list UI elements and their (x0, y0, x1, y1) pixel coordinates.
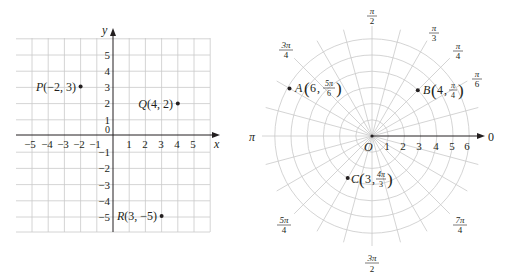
svg-text:): ) (387, 170, 393, 189)
point-r: R(3, −5) (116, 209, 164, 223)
svg-text:−2: −2 (98, 162, 110, 174)
svg-text:π: π (370, 6, 375, 16)
svg-text:−3: −3 (98, 179, 110, 191)
y-axis-arrow-icon (110, 28, 116, 36)
svg-text:3: 3 (432, 33, 437, 43)
svg-text:4: 4 (174, 138, 180, 150)
svg-text:1: 1 (126, 138, 132, 150)
svg-text:5: 5 (190, 138, 196, 150)
svg-text:1: 1 (384, 140, 390, 152)
svg-text:3: 3 (158, 138, 164, 150)
svg-text:6: 6 (475, 79, 480, 89)
angle-label-pi: π (249, 130, 256, 144)
svg-text:4π: 4π (377, 170, 386, 179)
svg-text:−4: −4 (98, 195, 110, 207)
svg-text:4: 4 (437, 83, 443, 97)
svg-text:−2: −2 (73, 138, 85, 150)
svg-text:3: 3 (365, 172, 371, 186)
cartesian-plane: x y 0 −5 −4 −3 −2 −1 1 2 3 4 5 5 4 3 2 1… (16, 23, 220, 232)
angle-label-pi-over-6: π 6 (472, 69, 482, 89)
svg-text:4: 4 (284, 50, 289, 60)
svg-text:3: 3 (105, 81, 111, 93)
svg-text:5π: 5π (279, 215, 289, 225)
polar-axis-label: 0 (488, 130, 494, 144)
polar-axis-arrow-icon (477, 133, 485, 139)
y-axis-label: y (101, 23, 108, 37)
angle-label-7pi-over-4: 7π 4 (453, 215, 467, 235)
svg-text:−3: −3 (57, 138, 69, 150)
svg-text:π: π (475, 69, 480, 79)
svg-text:2: 2 (105, 97, 111, 109)
svg-text:−5: −5 (98, 211, 110, 223)
svg-text:,: , (444, 83, 447, 97)
y-tick-labels: 5 4 3 2 1 −1 −2 −3 −4 −5 (98, 49, 110, 223)
svg-text:A: A (294, 81, 303, 95)
angle-label-3pi-over-4: 3π 4 (279, 40, 293, 60)
svg-text:R(3, −5): R(3, −5) (116, 209, 157, 223)
point-a: A ( 6 , 5π 6 ) (288, 79, 342, 98)
svg-text:3: 3 (379, 180, 383, 189)
svg-text:6: 6 (310, 81, 316, 95)
svg-text:3π: 3π (280, 40, 291, 50)
svg-text:Q(4, 2): Q(4, 2) (138, 97, 173, 111)
x-axis-label: x (213, 137, 220, 151)
svg-text:): ) (458, 81, 464, 100)
svg-text:6: 6 (464, 140, 470, 152)
svg-text:6: 6 (327, 89, 331, 98)
svg-text:−1: −1 (98, 146, 110, 158)
svg-text:4: 4 (433, 140, 439, 152)
svg-text:π: π (456, 41, 461, 51)
svg-text:4: 4 (105, 65, 111, 77)
svg-text:3π: 3π (366, 253, 377, 263)
svg-text:3: 3 (416, 140, 422, 152)
angle-label-3pi-over-2: 3π 2 (365, 253, 379, 274)
svg-text:−5: −5 (24, 138, 36, 150)
svg-text:2: 2 (370, 264, 375, 274)
pole-dot (370, 134, 373, 137)
angle-label-5pi-over-4: 5π 4 (277, 215, 291, 235)
svg-text:4: 4 (282, 225, 287, 235)
svg-text:π: π (432, 23, 437, 33)
pole-label: O (364, 140, 373, 154)
svg-text:4: 4 (458, 225, 463, 235)
svg-text:B: B (423, 83, 431, 97)
svg-text:): ) (336, 79, 342, 98)
svg-text:5: 5 (105, 49, 111, 61)
angle-label-pi-over-2: π 2 (367, 6, 377, 26)
svg-text:,: , (317, 81, 320, 95)
point-p: P(−2, 3) (35, 80, 83, 94)
angle-label-pi-over-4: π 4 (453, 41, 463, 61)
svg-text:7π: 7π (455, 215, 465, 225)
angle-label-pi-over-3: π 3 (429, 23, 439, 43)
svg-text:−4: −4 (41, 138, 53, 150)
svg-text:,: , (372, 172, 375, 186)
polar-plane: 0 O 1 2 3 4 5 6 π 2 π 3 π 4 (249, 6, 494, 274)
svg-text:4: 4 (456, 51, 461, 61)
svg-text:1: 1 (105, 114, 111, 126)
svg-text:2: 2 (400, 140, 406, 152)
svg-text:5: 5 (449, 140, 455, 152)
svg-text:P(−2, 3): P(−2, 3) (35, 80, 76, 94)
x-tick-labels: −5 −4 −3 −2 −1 1 2 3 4 5 (24, 138, 196, 150)
svg-text:4: 4 (451, 91, 455, 100)
svg-text:2: 2 (370, 16, 375, 26)
svg-text:2: 2 (142, 138, 148, 150)
svg-text:5π: 5π (325, 79, 334, 88)
